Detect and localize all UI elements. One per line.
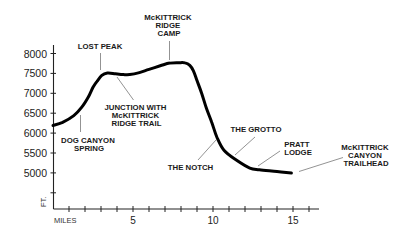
label-pratt-lodge: PRATT LODGE: [284, 140, 312, 157]
y-tick-label: 5000: [24, 167, 48, 179]
x-tick-label: 10: [207, 215, 219, 226]
label-mckittrick-ridge-camp: McKITTRICK RIDGE CAMP: [144, 13, 193, 38]
pointer-pratt-lodge: [258, 151, 280, 166]
y-tick-labels: 8000 7500 7000 6500 6000 5500 5000: [24, 48, 48, 179]
y-tick-label: 7000: [24, 87, 48, 99]
label-mckittrick-canyon-trailhead: McKITTRICK CANYON TRAILHEAD: [341, 143, 390, 168]
label-the-notch: THE NOTCH: [168, 163, 214, 172]
label-junction-ridge-trail: JUNCTION WITH McKITTRICK RIDGE TRAIL: [104, 103, 168, 129]
x-tick-label: 15: [287, 215, 299, 226]
y-tick-label: 7500: [24, 67, 48, 79]
pointer-trailhead: [299, 158, 343, 172]
pointer-grotto: [235, 137, 255, 155]
x-tick-label: 5: [130, 215, 136, 226]
x-axis-title: MILES: [54, 216, 77, 225]
pointer-junction: [117, 77, 134, 100]
pointer-notch: [198, 140, 216, 160]
y-tick-label: 5500: [24, 147, 48, 159]
y-tick-label: 6000: [24, 127, 48, 139]
y-axis-title: FT.: [39, 197, 48, 207]
label-dog-canyon-spring: DOG CANYON SPRING: [61, 136, 117, 153]
elevation-profile-line: [53, 63, 291, 174]
elevation-profile-chart: 8000 7500 7000 6500 6000 5500 5000 FT. M…: [0, 0, 411, 243]
y-tick-label: 8000: [24, 48, 48, 60]
label-lost-peak: LOST PEAK: [78, 42, 123, 51]
y-tick-label: 6500: [24, 107, 48, 119]
label-the-grotto: THE GROTTO: [231, 125, 282, 134]
